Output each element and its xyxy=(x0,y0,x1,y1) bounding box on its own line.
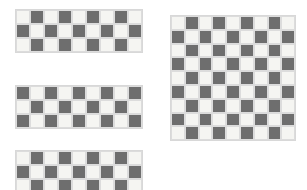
checker-cell xyxy=(58,38,72,52)
checker-cell xyxy=(114,179,128,190)
checker-cell xyxy=(86,10,100,24)
checker-cell xyxy=(254,113,268,127)
checker-cell xyxy=(171,85,185,99)
checker-cell xyxy=(185,113,199,127)
checker-cell xyxy=(240,57,254,71)
checker-cell xyxy=(171,57,185,71)
checker-cell xyxy=(212,71,226,85)
checker-cell xyxy=(212,85,226,99)
checker-cell xyxy=(212,16,226,30)
checker-cell xyxy=(171,16,185,30)
checker-cell xyxy=(30,151,44,165)
checker-cell xyxy=(58,86,72,100)
checker-cell xyxy=(58,24,72,38)
checker-cell xyxy=(16,151,30,165)
checker-cell xyxy=(171,99,185,113)
checker-cell xyxy=(30,100,44,114)
checker-cell xyxy=(281,113,295,127)
checker-cell xyxy=(100,38,114,52)
checker-cell xyxy=(100,86,114,100)
checker-cell xyxy=(114,151,128,165)
checker-cell xyxy=(128,10,142,24)
checker-cell xyxy=(268,44,282,58)
checker-cell xyxy=(226,126,240,140)
checker-cell xyxy=(58,114,72,128)
board-bottom-left xyxy=(15,150,143,190)
checker-cell xyxy=(72,100,86,114)
checker-cell xyxy=(100,24,114,38)
checker-cell xyxy=(44,10,58,24)
checker-cell xyxy=(100,10,114,24)
checker-cell xyxy=(185,126,199,140)
checker-cell xyxy=(16,86,30,100)
checker-cell xyxy=(171,44,185,58)
checker-cell xyxy=(30,24,44,38)
checker-cell xyxy=(30,165,44,179)
checker-cell xyxy=(254,30,268,44)
checker-cell xyxy=(212,44,226,58)
checker-cell xyxy=(281,85,295,99)
checker-cell xyxy=(199,16,213,30)
checker-cell xyxy=(128,179,142,190)
checker-cell xyxy=(16,24,30,38)
checker-cell xyxy=(114,24,128,38)
checker-cell xyxy=(254,71,268,85)
checker-cell xyxy=(226,44,240,58)
checkerboard-canvas xyxy=(0,0,307,190)
checker-cell xyxy=(281,44,295,58)
checker-cell xyxy=(212,126,226,140)
board-top-left xyxy=(15,9,143,53)
checker-cell xyxy=(128,151,142,165)
checker-cell xyxy=(72,24,86,38)
checker-cell xyxy=(240,16,254,30)
checker-cell xyxy=(199,44,213,58)
checker-cell xyxy=(44,165,58,179)
checker-cell xyxy=(281,126,295,140)
checker-cell xyxy=(240,85,254,99)
checker-cell xyxy=(268,16,282,30)
checker-cell xyxy=(240,126,254,140)
checker-cell xyxy=(30,10,44,24)
checker-cell xyxy=(268,126,282,140)
checker-cell xyxy=(254,44,268,58)
checker-cell xyxy=(254,99,268,113)
checker-cell xyxy=(72,179,86,190)
checker-cell xyxy=(16,100,30,114)
checker-cell xyxy=(86,114,100,128)
checker-cell xyxy=(281,30,295,44)
checker-cell xyxy=(72,38,86,52)
checker-cell xyxy=(44,100,58,114)
checker-cell xyxy=(16,179,30,190)
checker-cell xyxy=(114,86,128,100)
checker-cell xyxy=(114,100,128,114)
checker-cell xyxy=(44,179,58,190)
checker-cell xyxy=(268,85,282,99)
checker-cell xyxy=(128,38,142,52)
checker-cell xyxy=(212,30,226,44)
checker-cell xyxy=(44,86,58,100)
board-middle-left xyxy=(15,85,143,129)
checker-cell xyxy=(58,151,72,165)
board-right-large xyxy=(170,15,296,141)
checker-cell xyxy=(199,71,213,85)
checker-cell xyxy=(226,30,240,44)
checker-cell xyxy=(226,71,240,85)
checker-cell xyxy=(226,85,240,99)
checker-cell xyxy=(199,85,213,99)
checker-cell xyxy=(128,165,142,179)
checker-cell xyxy=(72,151,86,165)
checker-cell xyxy=(171,113,185,127)
checker-cell xyxy=(72,165,86,179)
checker-cell xyxy=(281,16,295,30)
checker-cell xyxy=(212,57,226,71)
checker-cell xyxy=(16,10,30,24)
checker-cell xyxy=(240,71,254,85)
checker-cell xyxy=(268,71,282,85)
checker-cell xyxy=(171,71,185,85)
checker-cell xyxy=(86,38,100,52)
checker-cell xyxy=(199,113,213,127)
checker-cell xyxy=(16,114,30,128)
checker-cell xyxy=(128,86,142,100)
checker-cell xyxy=(199,57,213,71)
checker-cell xyxy=(199,30,213,44)
